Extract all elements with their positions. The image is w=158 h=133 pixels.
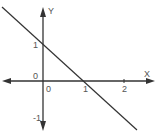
y-axis-up-arrow-icon [40, 7, 46, 17]
x-tick-label-1: 1 [83, 84, 88, 94]
origin-label-x: 0 [46, 84, 51, 94]
line-series [2, 7, 137, 130]
x-axis-label: X [144, 69, 150, 79]
y-axis-label: Y [48, 6, 54, 16]
origin-label-y: 0 [33, 71, 38, 81]
y-tick-label-1: 1 [33, 40, 38, 50]
x-axis-left-arrow-icon [2, 78, 11, 84]
y-tick-label-neg1: -1 [33, 113, 41, 123]
graph: Y X 1 0 0 1 2 -1 [0, 0, 158, 133]
x-tick-label-2: 2 [122, 84, 127, 94]
